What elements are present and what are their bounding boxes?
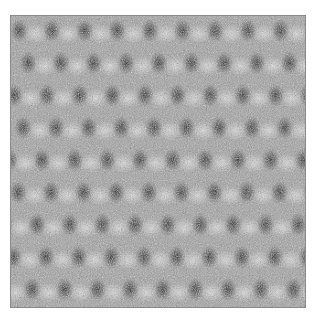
- micrograph-image: [10, 15, 306, 308]
- lattice-texture: [11, 16, 305, 307]
